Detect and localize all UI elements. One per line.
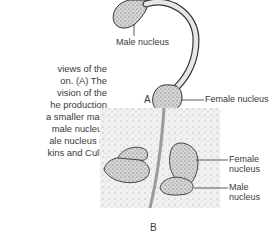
panel-letter-b: B (150, 222, 157, 233)
label-male-nucleus-b-line1: Male (229, 182, 249, 192)
label-male-nucleus-a: Male nucleus (116, 37, 169, 47)
label-female-nucleus-b-line1: Female (229, 154, 259, 164)
label-female-nucleus-b-line2: nucleus (229, 164, 260, 174)
panel-letter-a: A (144, 94, 151, 105)
label-female-nucleus-a: Female nucleus (205, 94, 269, 104)
panel-b-drawing (100, 108, 228, 208)
label-male-nucleus-b-line2: nucleus (229, 192, 260, 202)
panel-a-drawing (113, 0, 204, 112)
